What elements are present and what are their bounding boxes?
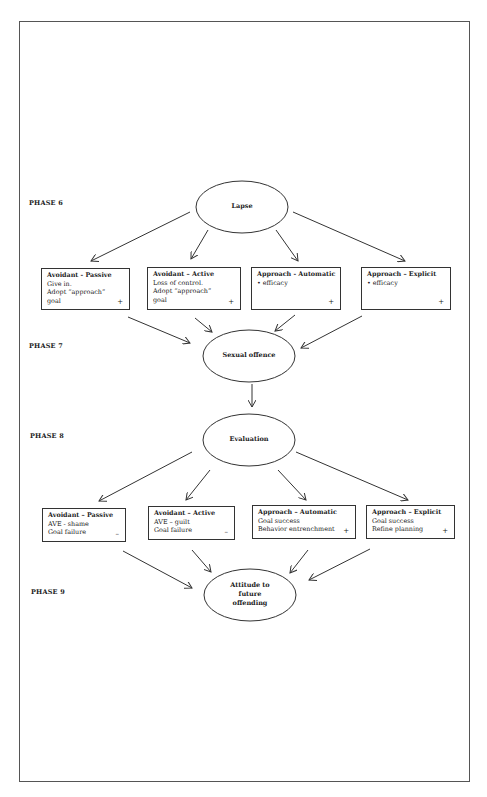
- box-title: Approach – Explicit: [367, 270, 445, 279]
- arrow-automatic-to-attitude: [290, 550, 308, 573]
- arrow-evaluation-to-avoidant-active: [186, 470, 210, 500]
- box-title: Avoidant – Passive: [48, 511, 120, 520]
- box-line: Goal success: [258, 517, 350, 526]
- arrow-explicit-to-attitude: [309, 549, 370, 580]
- box-approach-automatic-phase6: Approach - Automatic • efficacy +: [251, 267, 341, 310]
- phase-6-label: PHASE 6: [29, 199, 63, 207]
- evaluation-label: Evaluation: [230, 435, 269, 444]
- plus-sign: +: [228, 298, 234, 307]
- arrow-evaluation-to-approach-explicit: [296, 452, 408, 500]
- arrow-lapse-to-approach-automatic: [276, 230, 298, 261]
- arrow-lapse-to-avoidant-passive: [91, 212, 190, 261]
- arrow-passive-to-attitude: [123, 551, 192, 588]
- minus-sign: –: [116, 530, 120, 539]
- diagram-connectors: [0, 0, 487, 797]
- arrow-active-to-attitude: [192, 550, 211, 572]
- box-line: Loss of control.: [153, 279, 235, 288]
- attitude-line-3: offending: [230, 599, 269, 608]
- box-line: AVE - shame: [48, 520, 120, 529]
- arrow-automatic-to-offence: [275, 315, 295, 331]
- box-line: Adopt “approach”: [47, 288, 124, 297]
- box-line: Goal failure: [48, 528, 120, 537]
- box-line: Give in.: [47, 280, 124, 289]
- attitude-line-1: Attitude to: [230, 581, 269, 590]
- plus-sign: +: [442, 527, 448, 536]
- phase-7-label: PHASE 7: [29, 342, 63, 350]
- phase-8-label: PHASE 8: [30, 432, 64, 440]
- box-avoidant-active-phase6: Avoidant – Active Loss of control. Adopt…: [147, 267, 241, 310]
- box-line: AVE – guilt: [154, 518, 229, 527]
- box-avoidant-active-phase8: Avoidant – Active AVE – guilt Goal failu…: [148, 506, 235, 540]
- box-line: Goal success: [372, 517, 449, 526]
- sexual-offence-label: Sexual offence: [223, 351, 276, 360]
- plus-sign: +: [438, 298, 444, 307]
- attitude-line-2: future: [230, 590, 269, 599]
- plus-sign: +: [328, 298, 334, 307]
- box-title: Approach – Explicit: [372, 508, 449, 517]
- phase-9-label: PHASE 9: [31, 588, 65, 596]
- box-line: Refine planning: [372, 525, 449, 534]
- box-title: Avoidant – Active: [154, 509, 229, 518]
- box-line: • efficacy: [367, 279, 445, 288]
- attitude-label: Attitude to future offending: [230, 581, 269, 608]
- box-line: Behavior entrenchment: [258, 525, 350, 534]
- box-line: Goal failure: [154, 526, 229, 535]
- plus-sign: +: [343, 527, 349, 536]
- box-line: • efficacy: [257, 279, 335, 288]
- box-line: goal: [153, 296, 235, 305]
- arrow-passive-to-offence: [128, 317, 190, 343]
- box-avoidant-passive-phase6: Avoidant - Passive Give in. Adopt “appro…: [41, 268, 130, 310]
- arrow-evaluation-to-approach-automatic: [278, 470, 306, 500]
- box-approach-explicit-phase6: Approach – Explicit • efficacy +: [361, 267, 451, 310]
- arrow-active-to-offence: [195, 318, 212, 332]
- minus-sign: –: [225, 528, 229, 537]
- box-title: Approach – Automatic: [258, 508, 350, 517]
- box-line: Adopt “approach”: [153, 287, 235, 296]
- arrow-explicit-to-offence: [301, 316, 362, 348]
- box-line: goal: [47, 297, 124, 306]
- box-title: Avoidant – Active: [153, 270, 235, 279]
- arrow-lapse-to-avoidant-active: [191, 230, 208, 259]
- box-title: Approach - Automatic: [257, 270, 335, 279]
- box-approach-explicit-phase8: Approach – Explicit Goal success Refine …: [366, 505, 455, 539]
- lapse-label: Lapse: [231, 202, 252, 211]
- box-approach-automatic-phase8: Approach – Automatic Goal success Behavi…: [252, 505, 356, 539]
- arrow-lapse-to-approach-explicit: [293, 212, 405, 261]
- box-title: Avoidant - Passive: [47, 271, 124, 280]
- arrow-evaluation-to-avoidant-passive: [99, 452, 192, 501]
- plus-sign: +: [117, 298, 123, 307]
- box-avoidant-passive-phase8: Avoidant – Passive AVE - shame Goal fail…: [42, 508, 126, 542]
